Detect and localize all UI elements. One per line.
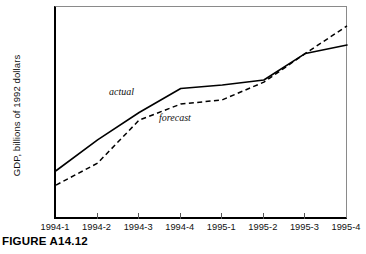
x-tick-mark — [138, 213, 139, 219]
x-tick-label: 1995-4 — [319, 222, 366, 232]
x-tick-mark — [221, 213, 222, 219]
line-forecast — [56, 26, 347, 185]
series-lines — [56, 7, 347, 218]
x-tick-mark — [304, 213, 305, 219]
line-actual — [56, 45, 347, 171]
figure-container: GDP, billions of 1992 dollars 6,4006,500… — [0, 0, 366, 254]
x-tick-mark — [180, 213, 181, 219]
x-tick-mark — [263, 213, 264, 219]
plot-inner — [56, 7, 346, 217]
figure-caption: FIGURE A14.12 — [2, 235, 88, 247]
series-label-actual: actual — [109, 86, 134, 97]
plot-area — [54, 6, 347, 219]
y-axis-title: GDP, billions of 1992 dollars — [11, 26, 22, 206]
x-tick-mark — [97, 213, 98, 219]
series-label-forecast: forecast — [159, 112, 191, 123]
